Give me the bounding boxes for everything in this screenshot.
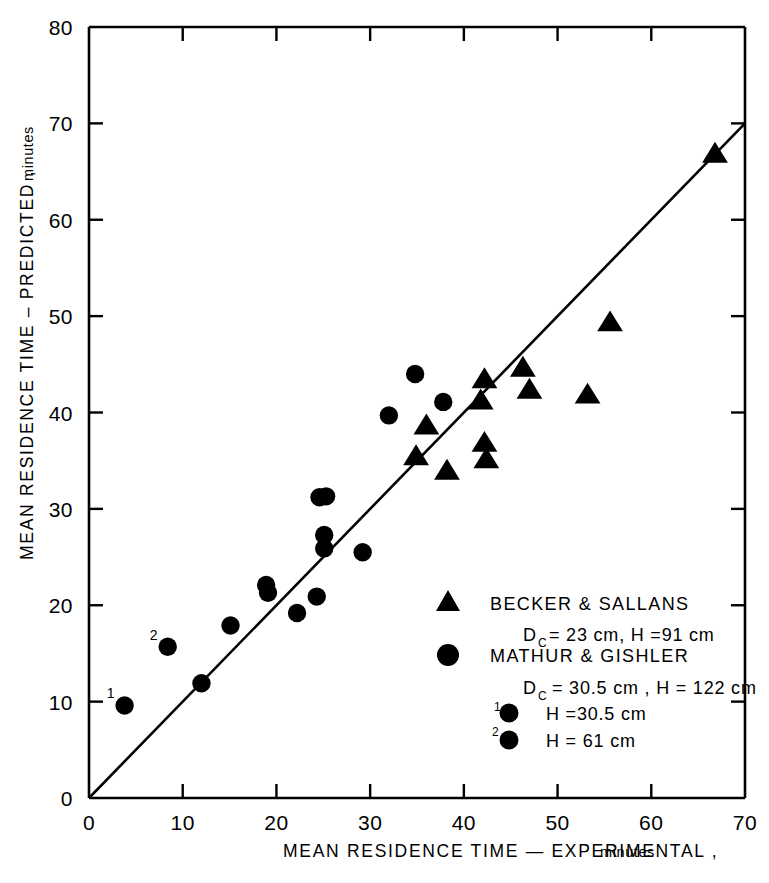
legend-marker-triangle xyxy=(436,590,460,611)
legend-entry-0-detail: = 23 cm, H =91 cm xyxy=(549,625,715,645)
data-point-superscript-1: 1 xyxy=(107,685,115,701)
y-axis-title: MEAN RESIDENCE TIME – PREDICTED , minute… xyxy=(17,126,37,560)
x-axis-title-units: minutes xyxy=(600,844,655,860)
series-1 xyxy=(192,365,452,693)
data-point-superscript-2: 2 xyxy=(150,627,158,643)
x-tick-label: 0 xyxy=(83,811,95,834)
data-point-triangle xyxy=(434,459,460,480)
y-axis-tick-labels: 01020304050607080 xyxy=(49,16,73,810)
data-point-triangle xyxy=(517,378,543,399)
y-tick-label: 50 xyxy=(49,305,73,328)
y-tick-label: 40 xyxy=(49,402,73,425)
y-axis-title-units: minutes xyxy=(20,126,36,181)
data-point-triangle xyxy=(575,383,601,404)
chart-legend: BECKER & SALLANS D C = 23 cm, H =91 cm M… xyxy=(436,590,757,751)
series-2: 1 xyxy=(107,685,134,714)
legend-entry-1-detail-prefix: D xyxy=(523,678,537,698)
x-tick-label: 10 xyxy=(171,811,195,834)
data-point-circle xyxy=(115,696,133,714)
x-tick-label: 50 xyxy=(545,811,569,834)
data-point-triangle xyxy=(510,356,536,377)
legend-sub-1-marker-circle xyxy=(500,731,519,750)
y-tick-label: 10 xyxy=(49,691,73,714)
data-point-circle xyxy=(159,637,177,655)
data-point-triangle xyxy=(472,367,498,388)
legend-sub-0-label: H =30.5 cm xyxy=(546,704,647,724)
y-axis-ticks xyxy=(89,123,745,701)
y-axis-title-text: MEAN RESIDENCE TIME – PREDICTED , xyxy=(17,170,37,560)
y-tick-label: 0 xyxy=(61,787,73,810)
y-tick-label: 80 xyxy=(49,16,73,39)
legend-entry-1-detail: = 30.5 cm , H = 122 cm xyxy=(552,678,757,698)
legend-entry-1-title: MATHUR & GISHLER xyxy=(490,646,689,666)
x-axis-tick-labels: 010203040506070 xyxy=(83,811,757,834)
data-point-circle xyxy=(315,539,333,557)
series-3: 2 xyxy=(150,627,177,656)
data-point-triangle xyxy=(468,388,494,409)
data-point-circle xyxy=(317,487,335,505)
legend-sub-1-superscript: 2 xyxy=(492,725,499,739)
data-point-circle xyxy=(288,604,306,622)
y-tick-label: 60 xyxy=(49,209,73,232)
data-point-circle xyxy=(192,674,210,692)
data-point-triangle xyxy=(403,444,429,465)
data-point-triangle xyxy=(472,431,498,452)
data-point-circle xyxy=(434,393,452,411)
x-tick-label: 20 xyxy=(264,811,288,834)
data-point-circle xyxy=(353,543,371,561)
x-tick-label: 70 xyxy=(733,811,757,834)
data-point-triangle xyxy=(413,414,439,435)
legend-entry-1-detail-sub: C xyxy=(538,689,547,703)
data-point-circle xyxy=(308,587,326,605)
plot-canvas: 010203040506070 01020304050607080 12 MEA… xyxy=(0,0,769,883)
data-point-circle xyxy=(259,584,277,602)
legend-sub-0-marker-circle xyxy=(500,704,519,723)
data-point-circle xyxy=(406,365,424,383)
legend-entry-0-title: BECKER & SALLANS xyxy=(490,594,689,614)
legend-entry-0-detail-prefix: D xyxy=(523,625,537,645)
x-tick-label: 40 xyxy=(452,811,476,834)
x-tick-label: 30 xyxy=(358,811,382,834)
x-axis-title: MEAN RESIDENCE TIME — EXPERIMENTAL , min… xyxy=(283,841,718,861)
y-tick-label: 70 xyxy=(49,112,73,135)
data-point-circle xyxy=(380,406,398,424)
scatter-chart-figure: 010203040506070 01020304050607080 12 MEA… xyxy=(0,0,769,883)
y-tick-label: 20 xyxy=(49,594,73,617)
data-point-triangle xyxy=(597,310,623,331)
y-tick-label: 30 xyxy=(49,498,73,521)
legend-marker-circle xyxy=(437,644,459,666)
data-point-circle xyxy=(221,616,239,634)
x-tick-label: 60 xyxy=(639,811,663,834)
legend-sub-1-label: H = 61 cm xyxy=(546,731,636,751)
